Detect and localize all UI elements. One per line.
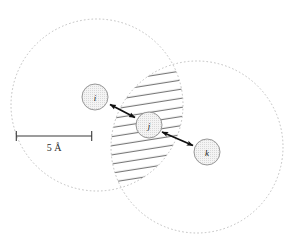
atom-j-label: j (147, 121, 151, 131)
atom-j: j (136, 112, 162, 138)
scale-bar: 5 Å (16, 131, 92, 153)
scale-bar-label: 5 Å (47, 142, 63, 153)
atom-k: k (194, 139, 220, 165)
atom-i: i (82, 84, 108, 110)
interaction-cutoff-diagram: i j k 5 Å (0, 0, 294, 246)
